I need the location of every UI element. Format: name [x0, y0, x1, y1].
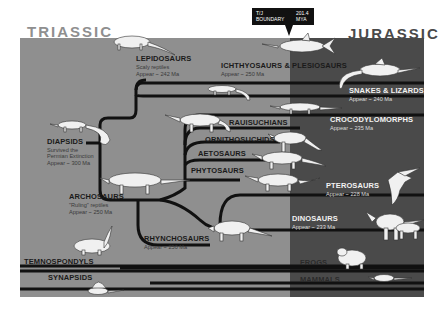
label-ichthyosaurs-plesiosaurs: ICHTHYOSAURS & PLESIOSAURS	[221, 62, 347, 70]
desc-lepidosaurs: Scaly reptiles	[136, 64, 169, 71]
lizard-illustration	[208, 86, 250, 101]
appear-diapsids: Appear ~ 300 Ma	[47, 160, 90, 167]
ichthyosaur-illustration	[262, 33, 335, 54]
appear-snakes-lizards: Appear ~ 240 Ma	[349, 96, 392, 103]
appear-ichthyosaurs: Appear ~ 250 Ma	[221, 71, 264, 78]
label-pterosaurs: PTEROSAURS	[326, 182, 379, 190]
mammal-illustration	[368, 275, 412, 282]
pterosaur-illustration	[388, 168, 420, 205]
label-crocodylomorphs: CROCODYLOMORPHS	[330, 116, 413, 124]
crocodylomorph-illustration	[270, 103, 342, 114]
label-frogs: FROGS	[300, 259, 327, 267]
dinosaur-illustration	[366, 212, 424, 240]
label-rauisuchians: RAUISUCHIANS	[229, 119, 288, 127]
label-lepidosaurs: LEPIDOSAURS	[136, 55, 191, 63]
boundary-pointer-icon	[285, 25, 293, 36]
appear-archosaurs: Appear ~ 250 Ma	[69, 209, 112, 216]
label-aetosaurs: AETOSAURS	[198, 150, 246, 158]
label-archosaurs: ARCHOSAURS	[69, 193, 124, 201]
temnospondyl-illustration	[74, 226, 112, 255]
desc2-diapsids: Permian Extinction	[47, 153, 94, 160]
appear-lepidosaurs: Appear ~ 242 Ma	[136, 71, 179, 78]
appear-crocodylomorphs: Appear ~ 235 Ma	[330, 125, 373, 132]
label-ornithosuchids: ORNITHOSUCHIDS	[205, 136, 275, 144]
label-diapsids: DIAPSIDS	[47, 138, 83, 146]
label-synapsids: SYNAPSIDS	[48, 274, 92, 282]
lepidosaur-illustration	[114, 36, 175, 55]
phytosaur-illustration	[245, 174, 320, 191]
desc-archosaurs: "Ruling" reptiles	[69, 202, 108, 209]
archosaur-illustration	[100, 173, 190, 194]
label-mammals: MAMMALS	[300, 276, 340, 284]
appear-pterosaurs: Appear ~ 228 Ma	[326, 191, 369, 198]
label-snakes-lizards: SNAKES & LIZARDS	[349, 87, 424, 95]
appear-rhynchosaurs: Appear ~ 250 Ma	[144, 244, 187, 251]
label-temnospondyls: TEMNOSPONDYLS	[24, 258, 94, 266]
label-phytosaurs: PHYTOSAURS	[191, 167, 244, 175]
appear-dinosaurs: Appear ~ 233 Ma	[292, 224, 335, 231]
label-dinosaurs: DINOSAURS	[292, 215, 338, 223]
label-rhynchosaurs: RHYNCHOSAURS	[144, 235, 209, 243]
